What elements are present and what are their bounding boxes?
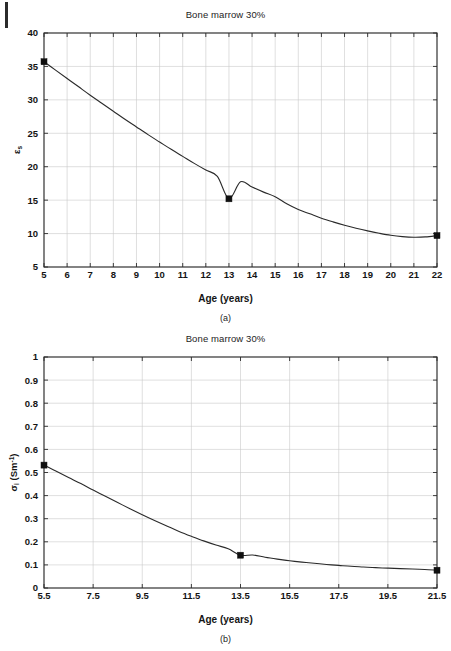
- chart-a-xtick-label: 9: [134, 269, 139, 280]
- chart-a-xtick-label: 11: [178, 269, 189, 280]
- chart-b-ytick-label: 1: [33, 351, 39, 362]
- chart-a-ytick-label: 20: [27, 161, 38, 172]
- chart-a-xtick-label: 13: [224, 269, 235, 280]
- chart-a-xtick-label: 22: [432, 269, 443, 280]
- svg-text:σi (Sm-1): σi (Sm-1): [8, 454, 20, 492]
- chart-a-xtick-label: 12: [201, 269, 212, 280]
- chart-b-data-marker: [434, 567, 440, 573]
- chart-a-ytick-label: 15: [27, 195, 38, 206]
- chart-a-xtick-label: 7: [88, 269, 93, 280]
- chart-b-xtick-label: 17.5: [330, 590, 349, 601]
- chart-a-ytick-label: 40: [27, 27, 38, 38]
- figure-b: Bone marrow 30% 5.57.59.511.513.515.517.…: [0, 332, 451, 648]
- chart-a-svg: 5678910111213141516171819202122510152025…: [0, 23, 451, 291]
- chart-a-series-line: [44, 62, 437, 238]
- chart-a-xtick-label: 16: [293, 269, 304, 280]
- chart-b-xtick-label: 9.5: [136, 590, 150, 601]
- chart-a-caption: (a): [0, 312, 451, 324]
- chart-a-data-marker: [41, 59, 47, 65]
- chart-a-xtick-label: 17: [316, 269, 327, 280]
- chart-b-data-marker: [41, 462, 47, 468]
- chart-b-ytick-label: 0.7: [25, 421, 38, 432]
- chart-a-xtick-label: 10: [154, 269, 165, 280]
- chart-b-caption: (b): [0, 633, 451, 645]
- figure-page: Bone marrow 30% 567891011121314151617181…: [0, 0, 451, 651]
- chart-a-xtick-label: 15: [270, 269, 281, 280]
- chart-a-title: Bone marrow 30%: [0, 8, 451, 21]
- chart-a-xtick-label: 18: [339, 269, 350, 280]
- chart-b-svg: 5.57.59.511.513.515.517.519.521.500.10.2…: [0, 347, 451, 612]
- chart-a-ytick-label: 30: [27, 94, 38, 105]
- chart-b-ytick-label: 0.6: [25, 444, 38, 455]
- chart-b-plot-area: 5.57.59.511.513.515.517.519.521.500.10.2…: [0, 347, 451, 612]
- chart-a-data-marker: [226, 196, 232, 202]
- chart-a-xtick-label: 5: [41, 269, 47, 280]
- chart-b-ytick-label: 0.2: [25, 536, 38, 547]
- chart-b-xaxis-label: Age (years): [0, 613, 451, 627]
- chart-b-ytick-label: 0.1: [25, 559, 39, 570]
- chart-b-yaxis-label: σi (Sm-1): [8, 454, 20, 492]
- chart-b-xtick-label: 11.5: [182, 590, 201, 601]
- chart-b-title: Bone marrow 30%: [0, 332, 451, 345]
- chart-b-xtick-label: 5.5: [37, 590, 51, 601]
- chart-b-xtick-label: 15.5: [280, 590, 299, 601]
- chart-a-xtick-label: 6: [64, 269, 69, 280]
- chart-b-ytick-label: 0.4: [25, 490, 39, 501]
- chart-b-ytick-label: 0.5: [25, 467, 39, 478]
- chart-a-xtick-label: 19: [362, 269, 373, 280]
- chart-b-ytick-label: 0.9: [25, 375, 38, 386]
- chart-b-data-marker: [238, 552, 244, 558]
- chart-b-xtick-label: 21.5: [428, 590, 447, 601]
- chart-b-xtick-label: 19.5: [379, 590, 398, 601]
- chart-a-yaxis-label: εs: [11, 146, 23, 155]
- chart-b-xtick-label: 7.5: [87, 590, 101, 601]
- chart-a-ytick-label: 35: [27, 61, 38, 72]
- chart-a-plot-area: 5678910111213141516171819202122510152025…: [0, 23, 451, 291]
- chart-b-ytick-label: 0.3: [25, 513, 38, 524]
- chart-a-xtick-label: 21: [409, 269, 420, 280]
- chart-a-xtick-label: 8: [111, 269, 116, 280]
- chart-a-ytick-label: 25: [27, 128, 38, 139]
- figure-a: Bone marrow 30% 567891011121314151617181…: [0, 8, 451, 326]
- chart-b-xtick-label: 13.5: [231, 590, 250, 601]
- chart-b-ytick-label: 0.8: [25, 398, 38, 409]
- chart-a-xtick-label: 20: [385, 269, 396, 280]
- chart-a-xaxis-label: Age (years): [0, 292, 451, 306]
- svg-text:εs: εs: [11, 146, 23, 155]
- chart-a-data-marker: [434, 233, 440, 239]
- chart-a-xtick-label: 14: [247, 269, 258, 280]
- chart-b-ytick-label: 0: [33, 582, 38, 593]
- chart-a-ytick-label: 5: [33, 261, 39, 272]
- chart-a-ytick-label: 10: [27, 228, 38, 239]
